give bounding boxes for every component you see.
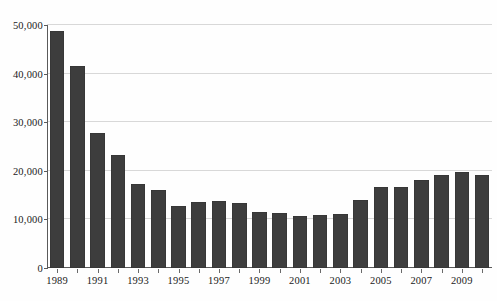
x-tick-mark — [462, 269, 463, 273]
y-tick-label: 10,000 — [13, 214, 43, 225]
x-tick-slot — [391, 269, 411, 299]
bar-slot — [47, 25, 67, 268]
bar-1995[interactable] — [171, 206, 186, 268]
x-tick-slot: 1997 — [209, 269, 229, 299]
bar-2006[interactable] — [394, 187, 409, 268]
bar-1993[interactable] — [131, 184, 146, 268]
bar-2005[interactable] — [374, 187, 389, 268]
x-tick-mark — [340, 269, 341, 273]
bar-slot — [290, 25, 310, 268]
x-tick-mark — [280, 269, 281, 273]
x-tick-slot: 1995 — [168, 269, 188, 299]
bar-slot — [371, 25, 391, 268]
x-tick-mark — [118, 269, 119, 273]
x-tick-slot: 2003 — [330, 269, 350, 299]
bar-1998[interactable] — [232, 203, 247, 268]
x-tick-slot — [229, 269, 249, 299]
x-tick-mark — [77, 269, 78, 273]
bar-1996[interactable] — [191, 202, 206, 268]
bar-slot — [128, 25, 148, 268]
x-tick-mark — [421, 269, 422, 273]
x-tick-mark — [401, 269, 402, 273]
bar-slot — [472, 25, 492, 268]
bar-slot — [351, 25, 371, 268]
bar-slot — [209, 25, 229, 268]
x-tick-slot — [431, 269, 451, 299]
bar-2010[interactable] — [475, 175, 490, 268]
x-tick-slot — [189, 269, 209, 299]
y-tick-label: 50,000 — [13, 20, 43, 31]
x-tick-slot: 1989 — [47, 269, 67, 299]
x-tick-mark — [219, 269, 220, 273]
bar-2007[interactable] — [414, 180, 429, 268]
bar-1997[interactable] — [212, 201, 227, 268]
x-tick-slot: 2001 — [290, 269, 310, 299]
x-tick-mark — [138, 269, 139, 273]
bar-slot — [411, 25, 431, 268]
bar-2003[interactable] — [333, 214, 348, 268]
x-tick-label: 2009 — [451, 275, 473, 286]
bar-slot — [249, 25, 269, 268]
bar-1990[interactable] — [70, 66, 85, 268]
bar-2004[interactable] — [353, 200, 368, 268]
x-tick-mark — [259, 269, 260, 273]
bar-slot — [391, 25, 411, 268]
x-tick-label: 1989 — [46, 275, 68, 286]
x-tick-slot: 1991 — [87, 269, 107, 299]
x-tick-label: 1993 — [127, 275, 149, 286]
bar-2001[interactable] — [293, 216, 308, 268]
bar-chart: 010,00020,00030,00040,00050,000 19891991… — [0, 0, 497, 301]
y-tick-label: 0 — [38, 263, 43, 274]
x-tick-mark — [239, 269, 240, 273]
bar-slot — [189, 25, 209, 268]
bar-1992[interactable] — [111, 155, 126, 268]
x-tick-slot — [310, 269, 330, 299]
x-tick-mark — [381, 269, 382, 273]
y-tick-label: 20,000 — [13, 165, 43, 176]
bar-slot — [452, 25, 472, 268]
x-tick-mark — [179, 269, 180, 273]
x-tick-slot: 2007 — [411, 269, 431, 299]
bar-2002[interactable] — [313, 215, 328, 268]
bar-1994[interactable] — [151, 190, 166, 268]
x-tick-label: 2001 — [289, 275, 311, 286]
bar-1999[interactable] — [252, 212, 267, 268]
x-tick-slot — [67, 269, 87, 299]
x-tick-mark — [320, 269, 321, 273]
bar-slot — [270, 25, 290, 268]
x-tick-slot — [351, 269, 371, 299]
bar-2009[interactable] — [455, 172, 470, 268]
bar-1989[interactable] — [50, 31, 65, 268]
y-axis-ticks: 010,00020,00030,00040,00050,000 — [0, 0, 43, 301]
bar-slot — [67, 25, 87, 268]
x-tick-label: 1995 — [168, 275, 190, 286]
bar-1991[interactable] — [90, 133, 105, 268]
x-tick-slot — [108, 269, 128, 299]
bar-2000[interactable] — [272, 213, 287, 268]
bar-slot — [168, 25, 188, 268]
x-tick-label: 2007 — [410, 275, 432, 286]
x-tick-mark — [98, 269, 99, 273]
x-tick-slot — [270, 269, 290, 299]
x-tick-label: 1991 — [87, 275, 109, 286]
bar-slot — [431, 25, 451, 268]
bar-slot — [310, 25, 330, 268]
bar-2008[interactable] — [434, 175, 449, 268]
x-axis-ticks: 1989199119931995199719992001200320052007… — [47, 269, 492, 299]
x-tick-label: 2005 — [370, 275, 392, 286]
bar-slot — [108, 25, 128, 268]
x-tick-label: 1997 — [208, 275, 230, 286]
bars-group — [47, 25, 492, 268]
x-tick-mark — [361, 269, 362, 273]
x-tick-slot — [472, 269, 492, 299]
x-tick-mark — [300, 269, 301, 273]
bar-slot — [87, 25, 107, 268]
x-tick-mark — [199, 269, 200, 273]
plot-area — [47, 25, 492, 268]
y-tick-label: 30,000 — [13, 117, 43, 128]
y-tick-mark — [44, 219, 48, 220]
x-tick-slot: 1999 — [249, 269, 269, 299]
x-tick-slot: 2009 — [452, 269, 472, 299]
y-tick-mark — [44, 122, 48, 123]
y-tick-mark — [44, 74, 48, 75]
